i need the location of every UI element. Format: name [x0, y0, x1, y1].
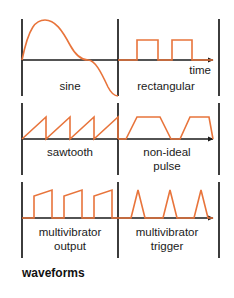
panel-label-non-ideal-pulse-line2: pulse — [153, 160, 181, 172]
panel-label-multivibrator-trigger-line1: multivibrator — [136, 226, 199, 238]
panel-label-rectangular: rectangular — [137, 80, 195, 92]
panel-label-multivibrator-trigger-line2: trigger — [151, 240, 184, 252]
panel-label-sine: sine — [59, 80, 80, 92]
panel-label-non-ideal-pulse-line1: non-ideal — [143, 146, 190, 158]
waveforms-diagram: sine time rectangular sawtooth non-ideal… — [0, 0, 234, 298]
waveforms-figure: sine time rectangular sawtooth non-ideal… — [0, 0, 234, 298]
figure-caption: waveforms — [21, 266, 85, 280]
panel-label-multivibrator-output-line1: multivibrator — [39, 226, 102, 238]
time-axis-label: time — [189, 64, 211, 76]
figure-background — [0, 0, 234, 298]
panel-label-multivibrator-output-line2: output — [54, 240, 87, 252]
panel-label-sawtooth: sawtooth — [47, 146, 93, 158]
